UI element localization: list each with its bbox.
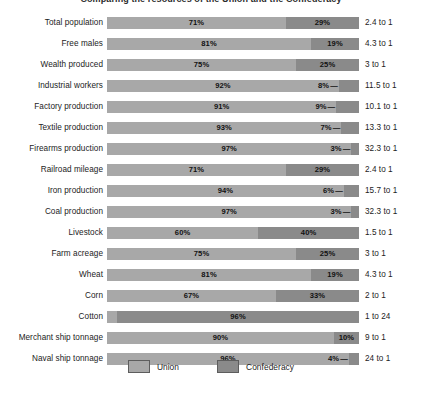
row-ratio: 10.1 to 1 (359, 102, 397, 112)
union-percent-label: 90% (213, 332, 229, 344)
union-percent-label: 60% (175, 227, 191, 239)
chart-row: Textile production93%7%13.3 to 1 (0, 117, 422, 138)
bar-segment-union[interactable]: 75% (107, 248, 296, 260)
chart-row: Wealth produced75%25%3 to 1 (0, 54, 422, 75)
stacked-bar[interactable]: 60%40% (107, 227, 359, 239)
bar-segment-confederacy[interactable]: 25% (296, 59, 359, 71)
row-label: Free males (0, 39, 107, 49)
bar-segment-union[interactable]: 97% (107, 143, 351, 155)
confederacy-percent-label: 96% (230, 311, 246, 323)
row-label: Firearms production (0, 144, 107, 154)
stacked-bar[interactable]: 93%7% (107, 122, 359, 134)
union-percent-label: 97% (221, 143, 237, 155)
chart-row: Industrial workers92%8%11.5 to 1 (0, 75, 422, 96)
union-percent-label: 81% (201, 38, 217, 50)
bar-segment-confederacy[interactable]: 10% (334, 332, 359, 344)
bar-segment-confederacy[interactable]: 6% (344, 185, 359, 197)
chart-row: Corn67%33%2 to 1 (0, 285, 422, 306)
chart-row: Wheat81%19%4.3 to 1 (0, 264, 422, 285)
legend-item[interactable]: Union (128, 360, 179, 373)
stacked-bar[interactable]: 71%29% (107, 164, 359, 176)
row-label: Total population (0, 18, 107, 28)
chart-row: Iron production94%6%15.7 to 1 (0, 180, 422, 201)
stacked-bar[interactable]: 71%29% (107, 17, 359, 29)
bar-segment-union[interactable]: 71% (107, 17, 286, 29)
chart-legend: UnionConfederacy (0, 360, 422, 373)
bar-segment-confederacy[interactable]: 7% (341, 122, 359, 134)
chart-title: Comparing the resources of the Union and… (0, 0, 422, 4)
row-label: Industrial workers (0, 81, 107, 91)
stacked-bar[interactable]: 97%3% (107, 206, 359, 218)
row-label: Livestock (0, 228, 107, 238)
row-label: Corn (0, 291, 107, 301)
bar-segment-confederacy[interactable]: 3% (351, 206, 359, 218)
row-ratio: 11.5 to 1 (359, 81, 397, 91)
chart-row: Farm acreage75%25%3 to 1 (0, 243, 422, 264)
confederacy-percent-label: 25% (320, 59, 336, 71)
row-label: Merchant ship tonnage (0, 333, 107, 343)
confederacy-percent-label: 25% (320, 248, 336, 260)
bar-segment-union[interactable]: 60% (107, 227, 258, 239)
stacked-bar[interactable]: 75%25% (107, 59, 359, 71)
bar-segment-union[interactable]: 91% (107, 101, 336, 113)
bar-segment-union[interactable]: 81% (107, 38, 311, 50)
bar-rows-container: Total population71%29%2.4 to 1Free males… (0, 12, 422, 369)
bar-segment-confederacy[interactable]: 3% (351, 143, 359, 155)
bar-segment-confederacy[interactable]: 25% (296, 248, 359, 260)
bar-segment-confederacy[interactable]: 96% (117, 311, 359, 323)
stacked-bar[interactable]: 92%8% (107, 80, 359, 92)
row-label: Iron production (0, 186, 107, 196)
bar-segment-union[interactable]: 67% (107, 290, 276, 302)
stacked-bar[interactable]: 97%3% (107, 143, 359, 155)
union-percent-label: 92% (215, 80, 231, 92)
stacked-bar[interactable]: 94%6% (107, 185, 359, 197)
bar-segment-confederacy[interactable]: 29% (286, 164, 359, 176)
row-label: Wealth produced (0, 60, 107, 70)
bar-segment-confederacy[interactable]: 19% (311, 269, 359, 281)
bar-segment-union[interactable]: 90% (107, 332, 334, 344)
bar-segment-union[interactable]: 81% (107, 269, 311, 281)
confederacy-percent-label: 8% (318, 80, 338, 92)
stacked-bar[interactable]: 81%19% (107, 38, 359, 50)
bar-segment-union[interactable]: 97% (107, 206, 351, 218)
row-ratio: 32.3 to 1 (359, 207, 397, 217)
stacked-bar[interactable]: 75%25% (107, 248, 359, 260)
union-percent-label: 97% (221, 206, 237, 218)
union-percent-label: 67% (184, 290, 200, 302)
legend-label: Confederacy (246, 362, 294, 372)
stacked-bar[interactable]: 67%33% (107, 290, 359, 302)
stacked-bar[interactable]: 81%19% (107, 269, 359, 281)
bar-segment-confederacy[interactable]: 19% (311, 38, 359, 50)
row-label: Cotton (0, 312, 107, 322)
bar-segment-union[interactable]: 71% (107, 164, 286, 176)
legend-item[interactable]: Confederacy (217, 360, 294, 373)
stacked-bar[interactable]: 4%96% (107, 311, 359, 323)
bar-segment-union[interactable]: 92% (107, 80, 339, 92)
bar-segment-confederacy[interactable]: 8% (339, 80, 359, 92)
row-ratio: 2.4 to 1 (359, 165, 393, 175)
bar-segment-confederacy[interactable]: 29% (286, 17, 359, 29)
bar-segment-confederacy[interactable]: 9% (336, 101, 359, 113)
union-percent-label: 91% (214, 101, 230, 113)
row-label: Coal production (0, 207, 107, 217)
union-percent-label: 71% (189, 164, 205, 176)
bar-segment-union[interactable]: 93% (107, 122, 341, 134)
stacked-bar[interactable]: 91%9% (107, 101, 359, 113)
row-ratio: 3 to 1 (359, 60, 386, 70)
bar-segment-union[interactable]: 4% (107, 311, 117, 323)
row-label: Textile production (0, 123, 107, 133)
chart-row: Railroad mileage71%29%2.4 to 1 (0, 159, 422, 180)
union-percent-label: 94% (218, 185, 234, 197)
row-ratio: 2 to 1 (359, 291, 386, 301)
stacked-bar[interactable]: 90%10% (107, 332, 359, 344)
confederacy-percent-label: 19% (327, 269, 343, 281)
row-ratio: 9 to 1 (359, 333, 386, 343)
confederacy-percent-label: 40% (301, 227, 317, 239)
row-ratio: 2.4 to 1 (359, 18, 393, 28)
row-ratio: 32.3 to 1 (359, 144, 397, 154)
bar-segment-confederacy[interactable]: 40% (258, 227, 359, 239)
bar-segment-confederacy[interactable]: 33% (276, 290, 359, 302)
row-ratio: 1.5 to 1 (359, 228, 393, 238)
bar-segment-union[interactable]: 75% (107, 59, 296, 71)
bar-segment-union[interactable]: 94% (107, 185, 344, 197)
